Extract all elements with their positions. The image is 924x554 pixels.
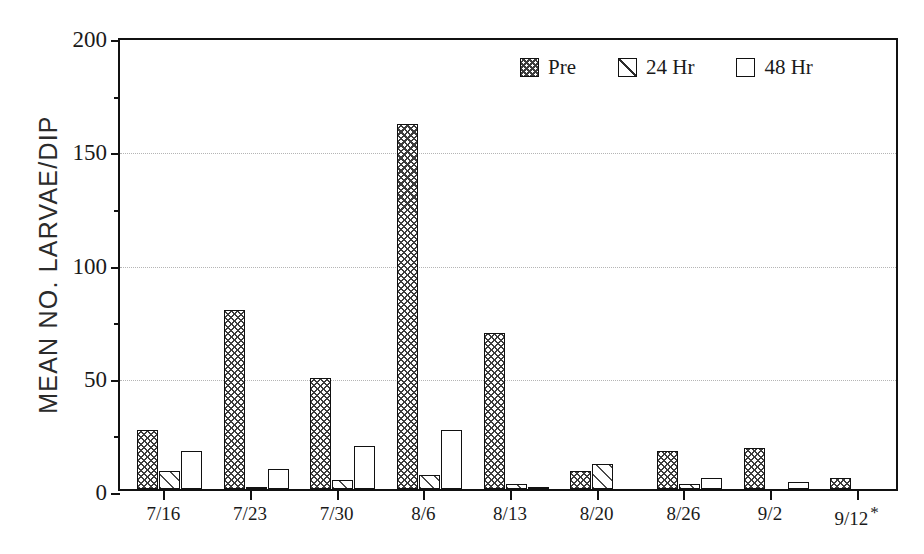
bar-48-hr-9-2 [788,482,809,489]
bar-24-hr-8-20 [592,464,613,489]
y-tick-label: 150 [73,140,108,166]
legend-item-48-hr: 48 Hr [736,55,812,80]
legend-item-pre: Pre [520,55,576,80]
legend-item-24-hr: 24 Hr [618,55,694,80]
x-tick-label: 8/26 [666,503,700,525]
plot-area: 200150100500 7/167/237/308/68/138/208/26… [118,38,898,491]
bar-24-hr-7-16 [159,471,180,489]
bar-24-hr-7-23 [246,487,267,489]
bar-pre-9-12- [830,478,851,489]
gridline [120,267,896,268]
bar-pre-8-6 [397,124,418,489]
x-tick-mark [250,489,252,500]
bar-chart-figure: MEAN NO. LARVAE/DIP 200150100500 7/167/2… [0,0,924,554]
legend-label: 24 Hr [646,55,694,80]
y-tick-major [111,153,120,155]
bar-24-hr-8-26 [679,484,700,489]
x-tick-label: 7/30 [320,503,354,525]
bar-48-hr-8-26 [701,478,722,489]
x-tick-label: 8/6 [411,503,435,525]
bar-48-hr-8-13 [528,487,549,489]
x-tick-label: 7/23 [233,503,267,525]
y-tick-major [111,380,120,382]
bar-pre-8-13 [484,333,505,489]
y-tick-label: 200 [73,27,108,53]
crosshatch-swatch [520,58,539,77]
x-tick-mark [510,489,512,500]
y-tick-minor [114,436,120,438]
x-tick-label: 9/2 [758,503,782,525]
y-tick-minor [114,210,120,212]
bar-24-hr-8-6 [419,475,440,489]
y-axis-title: MEAN NO. LARVAE/DIP [34,35,63,495]
legend-label: Pre [548,55,576,80]
bar-pre-7-23 [224,310,245,489]
bar-pre-8-20 [570,471,591,489]
bar-24-hr-7-30 [332,480,353,489]
x-tick-label: 7/16 [146,503,180,525]
diagonal-hatch-swatch [618,58,637,77]
x-tick-mark [163,489,165,500]
y-tick-minor [114,97,120,99]
empty-swatch [736,58,755,77]
y-tick-label: 0 [96,480,108,506]
bar-pre-9-2 [744,448,765,489]
x-tick-mark [683,489,685,500]
bar-pre-7-30 [310,378,331,489]
bar-pre-8-26 [657,451,678,490]
x-tick-mark [857,489,859,500]
x-tick-mark [770,489,772,500]
bar-pre-7-16 [137,430,158,489]
y-tick-major [111,40,120,42]
chart-legend: Pre24 Hr48 Hr [520,55,813,80]
bar-24-hr-8-13 [506,484,527,489]
y-tick-major [111,493,120,495]
y-tick-label: 100 [73,254,108,280]
x-tick-label: 8/20 [580,503,614,525]
y-tick-major [111,267,120,269]
x-tick-label: 9/12* [835,503,879,530]
bar-48-hr-7-16 [181,451,202,490]
bar-48-hr-7-30 [354,446,375,489]
y-tick-minor [114,323,120,325]
y-tick-label: 50 [84,367,107,393]
x-tick-mark [597,489,599,500]
gridline [120,153,896,154]
legend-label: 48 Hr [764,55,812,80]
x-tick-mark [337,489,339,500]
x-tick-mark [423,489,425,500]
asterisk-annotation: * [870,503,879,522]
bar-48-hr-8-6 [441,430,462,489]
bar-48-hr-7-23 [268,469,289,489]
x-tick-label: 8/13 [493,503,527,525]
